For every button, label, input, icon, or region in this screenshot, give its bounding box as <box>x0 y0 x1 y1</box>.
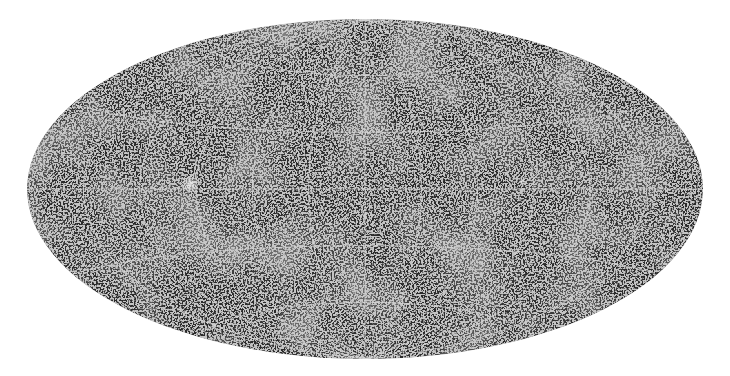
all-sky-map <box>0 0 730 376</box>
bright-knot-right <box>519 178 525 184</box>
